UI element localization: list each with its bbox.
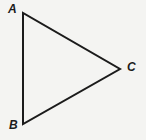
vertex-label-b: B [9,119,18,131]
vertex-label-c: C [127,61,136,73]
triangle-shape [0,0,146,140]
triangle-outline [23,13,120,124]
vertex-label-a: A [8,3,17,15]
triangle-figure: A B C [0,0,146,140]
